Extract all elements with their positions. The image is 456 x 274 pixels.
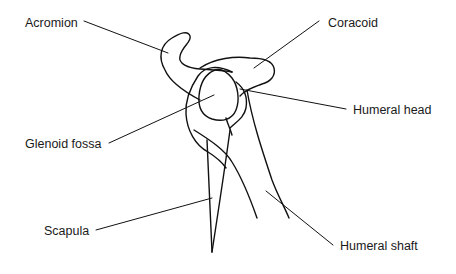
glenoid-fossa-leader <box>109 95 214 143</box>
label-humeral-shaft: Humeral shaft <box>340 240 418 253</box>
glenoid-fossa-outline <box>199 69 238 120</box>
label-humeral-head: Humeral head <box>353 104 432 117</box>
acromion-leader <box>84 21 168 53</box>
scapula-border-left <box>207 140 212 252</box>
label-scapula: Scapula <box>44 225 89 238</box>
coracoid-leader <box>254 21 319 68</box>
humeral-head-inner-arc <box>230 82 247 128</box>
scapula-spine-curve <box>194 130 257 218</box>
label-glenoid-fossa: Glenoid fossa <box>25 138 101 151</box>
label-coracoid: Coracoid <box>328 17 378 30</box>
scapula-leader <box>96 198 212 230</box>
label-acromion: Acromion <box>25 17 78 30</box>
humeral-head-leader <box>240 89 346 109</box>
shoulder-anatomy-diagram: Acromion Coracoid Humeral head Glenoid f… <box>0 0 456 274</box>
acromion-outline <box>161 33 232 100</box>
humeral-shaft-leader <box>266 191 333 245</box>
humeral-shaft-right <box>247 90 289 218</box>
